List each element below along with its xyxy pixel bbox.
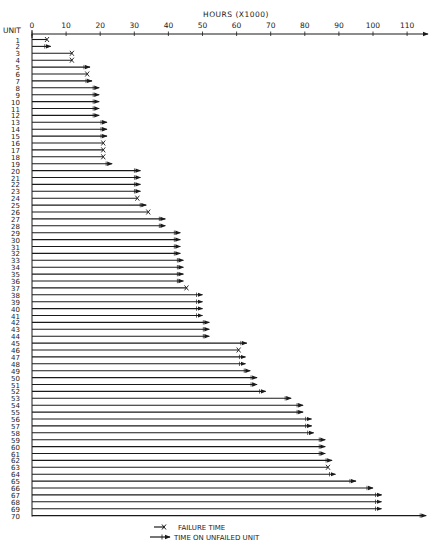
x-tick-label: 100 bbox=[366, 21, 381, 30]
unit-row: 11 bbox=[11, 106, 99, 114]
unit-row: 31 bbox=[11, 244, 180, 252]
unit-row: 50 bbox=[11, 375, 257, 383]
unit-row: 66 bbox=[11, 485, 373, 493]
unit-row: 35 bbox=[11, 271, 183, 279]
legend-item-failure: FAILURE TIME bbox=[154, 524, 225, 532]
legend-item-unfailed: TIME ON UNFAILED UNIT bbox=[150, 534, 260, 542]
unit-row: 4 bbox=[16, 57, 74, 65]
unit-row: 49 bbox=[11, 368, 250, 376]
unit-row: 32 bbox=[11, 250, 180, 258]
unit-row: 34 bbox=[11, 264, 183, 272]
unit-row: 42 bbox=[11, 319, 209, 327]
unit-row: 21 bbox=[11, 175, 140, 183]
x-tick-label: 0 bbox=[30, 21, 35, 30]
x-tick-label: 20 bbox=[95, 21, 105, 30]
legend: FAILURE TIME TIME ON UNFAILED UNIT bbox=[150, 524, 260, 542]
unit-row: 18 bbox=[11, 154, 105, 162]
unit-row: 54 bbox=[11, 402, 303, 410]
unit-row: 67 bbox=[11, 492, 381, 500]
x-tick-label: 40 bbox=[164, 21, 174, 30]
unit-row: 62 bbox=[11, 457, 332, 465]
unit-row: 44 bbox=[11, 333, 209, 341]
unit-row: 23 bbox=[11, 188, 140, 196]
unit-row: 7 bbox=[16, 78, 92, 86]
unit-row: 3 bbox=[16, 50, 74, 58]
unit-row: 29 bbox=[11, 230, 180, 238]
unit-row: 56 bbox=[11, 416, 312, 424]
unit-row: 36 bbox=[11, 278, 183, 286]
unit-row: 57 bbox=[11, 423, 312, 431]
x-tick-label: 90 bbox=[334, 21, 344, 30]
unit-row: 33 bbox=[11, 257, 183, 265]
unit-rows: 1234567891011121314151617181920212223242… bbox=[11, 37, 426, 521]
unit-row: 48 bbox=[11, 361, 245, 369]
legend-label-unfailed: TIME ON UNFAILED UNIT bbox=[173, 534, 260, 542]
unit-row: 25 bbox=[11, 202, 146, 210]
unit-row: 45 bbox=[11, 340, 247, 348]
unit-row: 19 bbox=[11, 161, 112, 169]
unit-row: 52 bbox=[11, 388, 266, 396]
unit-row: 55 bbox=[11, 409, 303, 417]
unit-row: 15 bbox=[11, 133, 107, 141]
unit-label: 70 bbox=[11, 513, 20, 521]
unit-row: 20 bbox=[11, 168, 140, 176]
unit-row: 53 bbox=[11, 395, 291, 403]
unit-row: 46 bbox=[11, 347, 241, 355]
x-tick-label: 60 bbox=[232, 21, 242, 30]
unit-row: 12 bbox=[11, 112, 99, 120]
unit-row: 2 bbox=[16, 43, 51, 51]
unit-row: 64 bbox=[11, 471, 335, 479]
x-axis: 0102030405060708090100110 bbox=[30, 21, 428, 517]
unit-row: 17 bbox=[11, 147, 105, 155]
unit-row: 27 bbox=[11, 216, 165, 224]
unit-row: 69 bbox=[11, 506, 381, 514]
unit-row: 8 bbox=[16, 85, 100, 93]
unit-row: 70 bbox=[11, 513, 426, 521]
unit-row: 9 bbox=[16, 92, 100, 100]
unit-row: 58 bbox=[11, 430, 314, 438]
unit-row: 28 bbox=[11, 223, 165, 231]
unit-axis-label: UNIT bbox=[3, 26, 21, 35]
axis-title: HOURS (X1000) bbox=[203, 10, 269, 19]
unit-hours-chart: HOURS (X1000) UNIT 010203040506070809010… bbox=[0, 0, 440, 556]
unit-row: 41 bbox=[11, 313, 202, 321]
unit-row: 5 bbox=[16, 64, 90, 72]
x-tick-label: 80 bbox=[300, 21, 310, 30]
unit-row: 43 bbox=[11, 326, 209, 334]
unit-row: 14 bbox=[11, 126, 107, 134]
x-tick-label: 10 bbox=[61, 21, 71, 30]
unit-row: 22 bbox=[11, 181, 140, 189]
unit-row: 39 bbox=[11, 299, 202, 307]
unit-row: 47 bbox=[11, 354, 245, 362]
unit-row: 63 bbox=[11, 464, 330, 472]
unit-row: 59 bbox=[11, 437, 325, 445]
x-tick-label: 30 bbox=[130, 21, 140, 30]
unit-row: 30 bbox=[11, 237, 180, 245]
unit-row: 51 bbox=[11, 382, 257, 390]
unit-row: 40 bbox=[11, 306, 202, 314]
x-tick-label: 50 bbox=[198, 21, 208, 30]
unit-row: 61 bbox=[11, 451, 325, 459]
unit-row: 13 bbox=[11, 119, 107, 127]
x-tick-label: 110 bbox=[400, 21, 415, 30]
unit-row: 37 bbox=[11, 285, 188, 293]
legend-label-failure: FAILURE TIME bbox=[178, 524, 225, 532]
unit-row: 68 bbox=[11, 499, 381, 507]
unit-row: 65 bbox=[11, 478, 356, 486]
unit-row: 60 bbox=[11, 444, 325, 452]
unit-row: 24 bbox=[11, 195, 139, 203]
unit-row: 38 bbox=[11, 292, 202, 300]
unit-row: 10 bbox=[11, 99, 99, 107]
unit-row: 6 bbox=[16, 71, 90, 79]
x-tick-label: 70 bbox=[266, 21, 276, 30]
unit-row: 16 bbox=[11, 140, 105, 148]
